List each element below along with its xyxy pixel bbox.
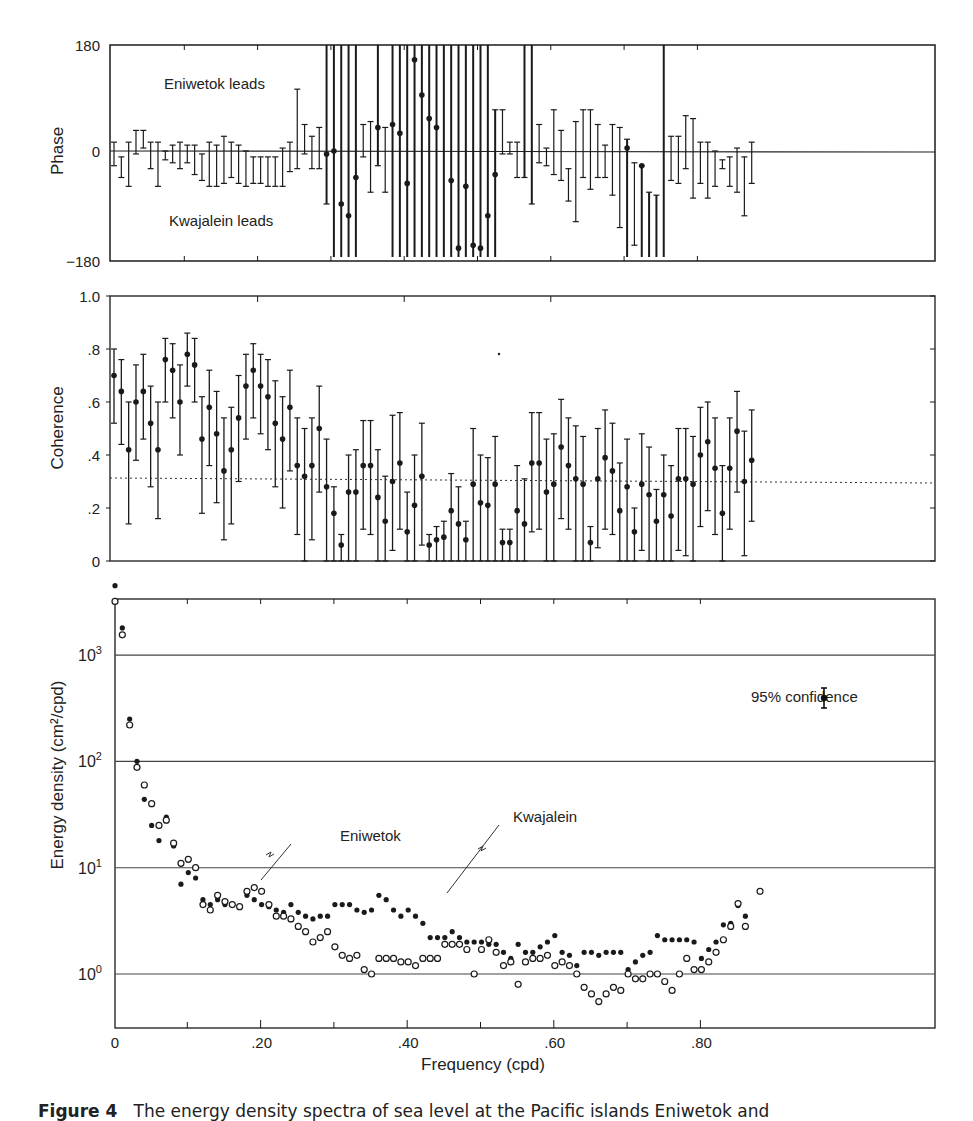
kwajalein-point [127, 716, 132, 721]
eniwetok-point [112, 598, 118, 604]
kwajalein-point [640, 953, 645, 958]
eniwetok-point [588, 991, 594, 997]
kwajalein-point [684, 937, 689, 942]
coherence-point [162, 338, 168, 402]
eniwetok-point [398, 959, 404, 965]
coherence-point [353, 450, 359, 561]
coherence-point [346, 455, 352, 561]
kwajalein-point [193, 875, 198, 880]
phase-point [316, 127, 322, 168]
eniwetok-point [420, 955, 426, 961]
kwajalein-point [442, 935, 447, 940]
eniwetok-point [178, 860, 184, 866]
coherence-point [697, 407, 703, 526]
kwajalein-point [259, 902, 264, 907]
coherence-point [382, 476, 388, 561]
figure-caption: Figure 4 The energy density spectra of s… [38, 1101, 769, 1121]
coherence-point [551, 434, 557, 561]
phase-point [683, 116, 689, 169]
phase-point [243, 151, 249, 186]
kwajalein-point [288, 902, 293, 907]
phase-point [749, 142, 755, 183]
eniwetok-point [735, 901, 741, 907]
phase-point [609, 125, 615, 196]
coherence-panel: 0.2.4.6.81.0 Coherence [48, 288, 935, 570]
eniwetok-point [339, 952, 345, 958]
caption-text: The energy density spectra of sea level … [134, 1101, 770, 1121]
eniwetok-point [640, 976, 646, 982]
eniwetok-point [156, 822, 162, 828]
phase-point [382, 127, 388, 192]
eniwetok-point [237, 904, 243, 910]
kwajalein-point [413, 914, 418, 919]
energy-tick-label: 103 [78, 644, 102, 664]
kwajalein-point [655, 933, 660, 938]
eniwetok-point [632, 976, 638, 982]
eniwetok-point [581, 984, 587, 990]
phase-point [221, 136, 227, 183]
coherence-point [719, 466, 725, 561]
phase-point [192, 145, 198, 174]
coherence-point [595, 429, 601, 548]
eniwetok-point [757, 888, 763, 894]
phase-point [375, 45, 381, 166]
eniwetok-point [537, 955, 543, 961]
phase-point [697, 142, 703, 183]
kwajalein-point [552, 933, 557, 938]
phase-point [587, 110, 593, 189]
phase-point [287, 142, 293, 171]
kwajalein-point [149, 823, 154, 828]
eniwetok-point [391, 955, 397, 961]
kwajalein-point [398, 914, 403, 919]
coherence-ticks [106, 296, 935, 561]
coherence-point [675, 429, 681, 551]
kwajalein-point [560, 950, 565, 955]
frequency-x-tick-labels: 0.20.40.60.80 [111, 1034, 712, 1051]
eniwetok-leader-line [261, 844, 291, 880]
coherence-point [236, 376, 242, 482]
phase-point [499, 110, 505, 154]
kwajalein-point [186, 870, 191, 875]
eniwetok-point [676, 971, 682, 977]
coherence-point [118, 360, 124, 445]
coherence-tick-label: .8 [87, 341, 100, 358]
phase-tick-180: 180 [75, 37, 100, 54]
coherence-point [111, 349, 117, 423]
coherence-tick-label: 0 [92, 553, 100, 570]
eniwetok-point [464, 947, 470, 953]
phase-point [199, 154, 205, 181]
eniwetok-point [479, 947, 485, 953]
x-tick-label: .80 [691, 1034, 712, 1051]
phase-point [170, 145, 176, 163]
phase-y-axis-label: Phase [48, 127, 67, 175]
phase-point [133, 130, 139, 154]
eniwetok-point [559, 959, 565, 965]
kwajalein-point [369, 907, 374, 912]
phase-point [675, 136, 681, 183]
kwajalein-point [420, 921, 425, 926]
phase-point [140, 130, 146, 148]
coherence-point [302, 429, 308, 562]
eniwetok-point [442, 941, 448, 947]
phase-point [565, 169, 571, 201]
coherence-point [441, 521, 447, 561]
coherence-point [609, 423, 615, 534]
coherence-point [140, 354, 146, 439]
coherence-frame [110, 296, 935, 561]
coherence-point [250, 344, 256, 418]
phase-point [360, 125, 366, 157]
coherence-point [529, 413, 535, 532]
kwajalein-point [677, 937, 682, 942]
kwajalein-point [457, 935, 462, 940]
eniwetok-point [486, 937, 492, 943]
phase-point [331, 45, 337, 257]
phase-point [705, 142, 711, 198]
energy-tick-label: 102 [78, 750, 102, 770]
coherence-point [749, 410, 755, 521]
coherence-point [258, 354, 264, 434]
coherence-point [397, 413, 403, 530]
coherence-point [390, 415, 396, 550]
energy-y-axis-label: Energy density (cm²/cpd) [48, 681, 67, 870]
eniwetok-series-label: Eniwetok [340, 827, 401, 844]
coherence-point [602, 410, 608, 529]
